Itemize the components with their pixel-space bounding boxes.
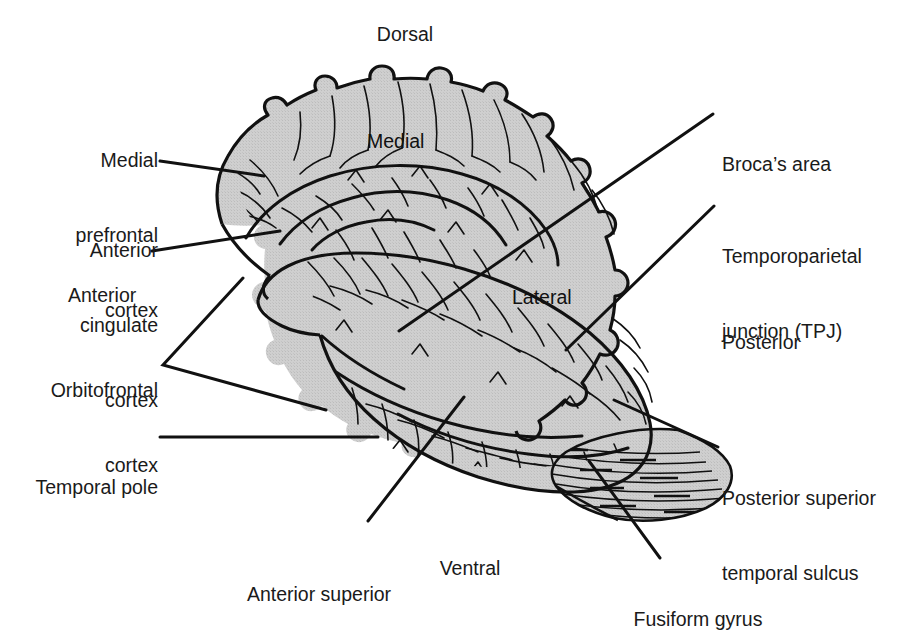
callout-line: Fusiform gyrus: [543, 607, 853, 632]
surface-label-lateral: Lateral: [512, 286, 572, 309]
callout-anterior-superior-temporal-sulcus: Anterior superior temporal sulcus (STS): [229, 532, 409, 636]
orientation-label-ventral: Ventral: [415, 556, 525, 581]
callout-temporal-pole: Temporal pole: [0, 425, 158, 550]
callout-line: Anterior: [0, 238, 158, 263]
callout-line: Orbitofrontal: [0, 378, 158, 403]
surface-label-medial: Medial: [367, 130, 424, 153]
callout-line: Posterior superior: [722, 486, 907, 511]
callout-line: Anterior superior: [229, 582, 409, 607]
callout-line: Broca’s area: [722, 152, 907, 177]
callout-line: Temporal pole: [0, 475, 158, 500]
callout-line: Temporoparietal: [722, 244, 907, 269]
callout-fusiform-gyrus: Fusiform gyrus (invisible: on ventral su…: [543, 557, 853, 636]
brain-diagram-figure: Dorsal Ventral Anterior Posterior Medial…: [0, 0, 907, 636]
callout-line: junction (TPJ): [722, 319, 907, 344]
callout-temporoparietal-junction: Temporoparietal junction (TPJ): [722, 194, 907, 394]
orientation-label-dorsal: Dorsal: [340, 22, 470, 47]
callout-line: Medial: [0, 148, 158, 173]
